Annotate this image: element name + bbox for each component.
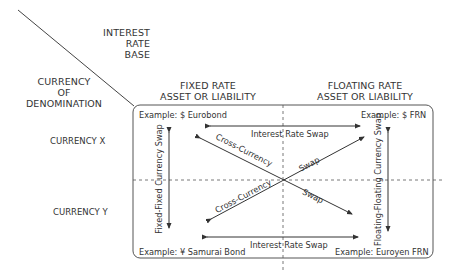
- fixed-header-line2: ASSET OR LIABILITY: [143, 91, 273, 102]
- interest-rate-swap-bottom-label: Interest Rate Swap: [250, 240, 328, 250]
- currency-label-line3: DENOMINATION: [18, 98, 110, 109]
- floating-floating-currency-swap-label: Floating-Floating Currency Swap: [373, 116, 383, 246]
- currency-label-line1: CURRENCY: [18, 76, 110, 87]
- fixed-rate-column-header: FIXED RATE ASSET OR LIABILITY: [143, 80, 273, 102]
- floating-header-line1: FLOATING RATE: [295, 80, 435, 91]
- floating-rate-column-header: FLOATING RATE ASSET OR LIABILITY: [295, 80, 435, 102]
- interest-rate-base-label: INTEREST RATE BASE: [60, 27, 150, 60]
- interest-label-line2: RATE: [60, 38, 150, 49]
- interest-label-line1: INTEREST: [60, 27, 150, 38]
- currency-y-label: CURRENCY Y: [53, 207, 108, 217]
- fixed-fixed-currency-swap-label: Fixed-Fixed Currency Swap: [154, 124, 164, 234]
- interest-rate-swap-top-label: Interest Rate Swap: [251, 129, 329, 139]
- currency-label-line2: OF: [18, 87, 110, 98]
- currency-of-denomination-label: CURRENCY OF DENOMINATION: [18, 76, 110, 109]
- example-bottom-right: Example: Euroyen FRN: [335, 247, 429, 257]
- example-top-right: Example: $ FRN: [361, 110, 426, 120]
- interest-label-line3: BASE: [60, 49, 150, 60]
- currency-x-label: CURRENCY X: [50, 136, 105, 146]
- example-bottom-left: Example: ¥ Samurai Bond: [139, 247, 245, 257]
- fixed-header-line1: FIXED RATE: [143, 80, 273, 91]
- example-top-left: Example: $ Eurobond: [139, 110, 227, 120]
- floating-header-line2: ASSET OR LIABILITY: [295, 91, 435, 102]
